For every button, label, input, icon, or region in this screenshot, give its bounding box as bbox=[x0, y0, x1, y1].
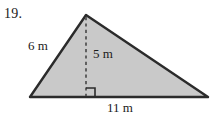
triangle-shape bbox=[30, 15, 208, 97]
label-height-length: 5 m bbox=[93, 47, 113, 60]
triangle-figure bbox=[0, 0, 212, 122]
figure-page: 19. 6 m 5 m 11 m bbox=[0, 0, 212, 122]
label-left-side-length: 6 m bbox=[28, 39, 48, 52]
label-base-length: 11 m bbox=[107, 101, 133, 114]
